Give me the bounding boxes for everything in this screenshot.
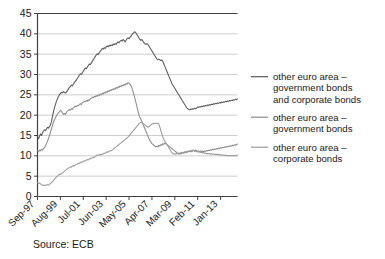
y-axis-tick-labels: 051015202530354045 [20, 7, 32, 202]
legend-label-2-line-1: other euro area – [273, 112, 347, 123]
source-note: Source: ECB [33, 238, 94, 250]
series-line-1 [38, 32, 238, 139]
legend-label-1-line-3: and corporate bonds [273, 94, 361, 105]
y-tick-label-5: 5 [26, 170, 32, 182]
series-lines [38, 32, 238, 186]
x-tick-label-8: Jan-13 [190, 198, 220, 228]
y-tick-label-10: 10 [20, 149, 32, 161]
y-tick-label-40: 40 [20, 27, 32, 39]
legend-label-3-line-1: other euro area – [273, 142, 347, 153]
chart-figure: 051015202530354045 Sep-97Aug-99Jul-01Jun… [0, 0, 385, 259]
legend-label-3-line-2: corporate bonds [273, 153, 343, 164]
y-tick-label-15: 15 [20, 129, 32, 141]
y-tick-label-35: 35 [20, 48, 32, 60]
series-line-2 [38, 83, 238, 155]
legend-label-1-line-2: government bonds [273, 82, 353, 93]
chart-legend: other euro area –government bondsand cor… [251, 71, 361, 164]
gridlines [38, 14, 238, 177]
legend-label-2-line-2: government bonds [273, 123, 353, 134]
y-tick-label-45: 45 [20, 7, 32, 19]
x-axis-tick-labels: Sep-97Aug-99Jul-01Jun-03May-05Apr-07Mar-… [6, 198, 220, 230]
y-tick-label-20: 20 [20, 109, 32, 121]
line-chart: 051015202530354045 Sep-97Aug-99Jul-01Jun… [0, 0, 385, 259]
legend-label-1-line-1: other euro area – [273, 71, 347, 82]
x-tick-label-1: Aug-99 [29, 198, 60, 229]
y-tick-label-30: 30 [20, 68, 32, 80]
y-tick-label-25: 25 [20, 88, 32, 100]
